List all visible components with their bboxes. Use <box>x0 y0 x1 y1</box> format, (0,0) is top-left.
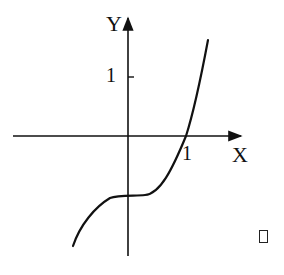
y-axis-label: Y <box>106 11 122 36</box>
x-axis-label: X <box>232 142 248 167</box>
x-tick-label: 1 <box>182 142 192 164</box>
function-graph: Y 1 1 X <box>0 0 284 275</box>
placeholder-box-glyph <box>259 230 268 243</box>
y-tick-label: 1 <box>106 64 116 86</box>
